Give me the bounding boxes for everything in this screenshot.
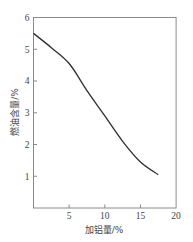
x-axis-label: 加铝量/% [85, 224, 124, 235]
y-tick-label: 5 [25, 45, 30, 55]
y-tick-label: 3 [25, 108, 30, 118]
x-tick-label: 15 [136, 211, 146, 221]
y-axis-ticks: 123456 [25, 13, 37, 182]
x-tick-label: 20 [171, 211, 181, 221]
y-tick-label: 4 [25, 76, 30, 86]
y-tick-label: 1 [25, 172, 30, 182]
y-tick-label: 2 [25, 140, 30, 150]
line-chart: 123456 5101520 燃油含量/% 加铝量/% [0, 0, 193, 242]
data-curve [34, 33, 159, 174]
x-tick-label: 5 [67, 211, 72, 221]
y-tick-label: 6 [25, 13, 30, 23]
plot-frame [34, 18, 177, 209]
y-axis-label: 燃油含量/% [9, 88, 20, 136]
x-tick-label: 10 [100, 211, 110, 221]
x-axis-ticks: 5101520 [67, 205, 181, 222]
